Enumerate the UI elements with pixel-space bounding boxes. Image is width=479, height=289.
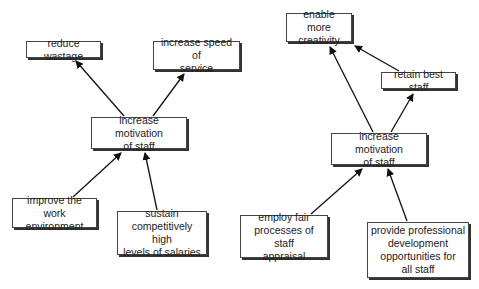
node-text-line: employ fair <box>244 211 324 224</box>
node-text-line: reduce wastage <box>30 37 97 63</box>
arrow-center-to-reduce-wastage <box>76 61 124 116</box>
node-text-line: provide professional <box>371 224 465 237</box>
node-increase-motivation-left: increase motivationof staff <box>91 117 187 149</box>
node-text-line: increase motivation <box>95 114 183 140</box>
node-text-line: enable more <box>290 8 348 34</box>
node-text-line: appraisal <box>244 250 324 263</box>
node-text-line: service <box>157 62 236 75</box>
node-text-line: increase speed of <box>157 36 236 62</box>
arrow-salaries-to-center <box>145 153 157 210</box>
node-text-line: of staff <box>95 140 183 153</box>
node-increase-motivation-right: increase motivationof staff <box>331 133 427 165</box>
node-employ-fair-appraisal: employ fairprocesses of staffappraisal <box>240 215 328 258</box>
node-provide-professional-development: provide professionaldevelopmentopportuni… <box>367 222 469 278</box>
node-text-line: retain best staff <box>385 68 452 94</box>
arrow-center-to-speed-of-service <box>153 74 184 116</box>
node-retain-best-staff: retain best staff <box>381 72 456 89</box>
node-enable-more-creativity: enable morecreativity <box>286 13 352 42</box>
node-text-line: of staff <box>335 156 423 169</box>
node-improve-work-environment: improve the workenvironment <box>12 198 97 228</box>
node-reduce-wastage: reduce wastage <box>26 41 101 58</box>
node-text-line: development <box>371 237 465 250</box>
node-text-line: improve the work <box>16 194 93 220</box>
node-text-line: levels of salaries <box>121 246 203 259</box>
node-text-line: creativity <box>290 34 348 47</box>
node-text-line: opportunities for <box>371 250 465 263</box>
node-text-line: sustain <box>121 207 203 220</box>
node-increase-speed-of-service: increase speed ofservice <box>153 41 240 70</box>
node-text-line: processes of staff <box>244 224 324 250</box>
node-text-line: all staff <box>371 263 465 276</box>
node-text-line: increase motivation <box>335 130 423 156</box>
arrow-work-environment-to-center <box>73 153 121 197</box>
arrow-appraisal-to-center <box>311 169 362 214</box>
arrow-center-to-retain <box>391 94 413 132</box>
node-text-line: environment <box>16 220 93 233</box>
node-sustain-salaries: sustaincompetitively highlevels of salar… <box>117 211 207 255</box>
node-text-line: competitively high <box>121 220 203 246</box>
arrow-professional-dev-to-center <box>388 169 407 221</box>
arrow-center-to-creativity <box>330 47 373 132</box>
